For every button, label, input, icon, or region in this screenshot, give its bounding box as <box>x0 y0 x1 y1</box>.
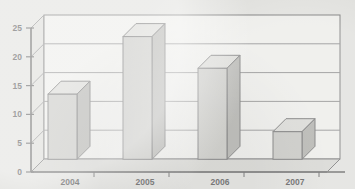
chart-canvas: 0 5 10 15 20 25 2004 2005 2006 2007 <box>0 0 355 189</box>
bar-chart: 0 5 10 15 20 25 2004 2005 2006 2007 <box>0 0 355 189</box>
ytick-label-10: 10 <box>13 109 23 119</box>
bar-2007[interactable] <box>273 119 315 160</box>
plot-left-wall <box>31 15 44 172</box>
bar-2007-front-face <box>273 132 302 160</box>
ytick-label-15: 15 <box>13 81 23 91</box>
plot-floor <box>31 159 340 172</box>
bar-2004-front-face <box>48 94 77 159</box>
bar-2006-side-face <box>227 55 240 159</box>
bar-2004-side-face <box>77 81 90 159</box>
xtick-label-2006: 2006 <box>211 177 230 187</box>
ytick-label-5: 5 <box>17 138 22 148</box>
bar-2006[interactable] <box>198 55 240 159</box>
ytick-label-0: 0 <box>17 167 22 177</box>
x-axis-category-labels: 2004 2005 2006 2007 <box>61 177 305 187</box>
ytick-label-20: 20 <box>13 52 23 62</box>
bar-2004[interactable] <box>48 81 90 159</box>
bar-2006-front-face <box>198 68 227 159</box>
xtick-label-2007: 2007 <box>286 177 305 187</box>
xtick-label-2005: 2005 <box>136 177 155 187</box>
y-axis-tick-labels: 0 5 10 15 20 25 <box>13 23 23 177</box>
ytick-label-25: 25 <box>13 23 23 33</box>
bar-2005-front-face <box>123 37 152 160</box>
bar-2005[interactable] <box>123 24 165 160</box>
xtick-label-2004: 2004 <box>61 177 80 187</box>
bar-2005-side-face <box>152 24 165 160</box>
